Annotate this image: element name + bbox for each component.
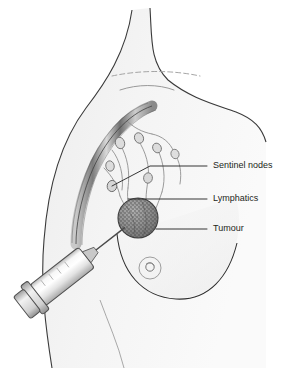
- label-sentinel-nodes: Sentinel nodes: [213, 160, 273, 170]
- label-tumour: Tumour: [213, 223, 244, 233]
- label-lymphatics: Lymphatics: [213, 193, 259, 203]
- illustration-canvas: Sentinel nodes Lymphatics Tumour: [0, 0, 288, 368]
- medical-illustration-figure: Sentinel nodes Lymphatics Tumour: [0, 0, 288, 368]
